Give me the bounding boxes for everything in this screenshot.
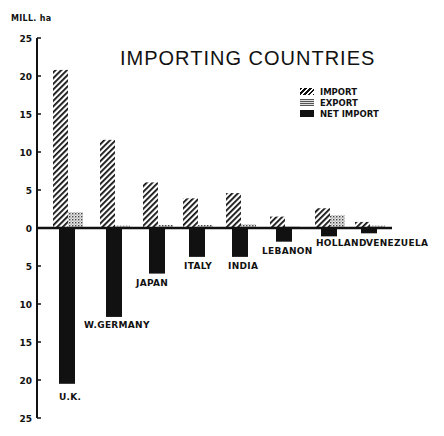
country-label: HOLLAND <box>316 238 367 248</box>
y-tick-label: 15 <box>19 338 32 348</box>
y-tick-label: 25 <box>19 414 32 424</box>
net-import-swatch-icon <box>300 110 314 117</box>
export-bar <box>330 215 345 228</box>
y-tick-label: 5 <box>26 262 32 272</box>
y-tick-label: 0 <box>26 224 32 234</box>
country-label: ITALY <box>184 261 212 271</box>
country-label: W.GERMANY <box>84 320 150 330</box>
legend: IMPORT EXPORT NET IMPORT <box>300 86 379 119</box>
net-import-bar <box>59 228 75 384</box>
import-bar <box>143 182 158 228</box>
country-label: JAPAN <box>136 278 168 288</box>
country-label: U.K. <box>59 392 81 402</box>
y-tick-label: 20 <box>19 376 32 386</box>
country-label: LEBANON <box>262 246 313 256</box>
export-swatch-icon <box>300 99 314 106</box>
net-import-bar <box>321 228 337 236</box>
net-import-bar <box>149 228 165 274</box>
y-tick-label: 20 <box>19 72 32 82</box>
y-tick-label: 10 <box>19 300 32 310</box>
net-import-bar <box>232 228 248 257</box>
legend-item-net-import: NET IMPORT <box>300 108 379 119</box>
chart-title: IMPORTING COUNTRIES <box>120 47 375 70</box>
y-tick-label: 10 <box>19 148 32 158</box>
legend-item-import: IMPORT <box>300 86 379 97</box>
y-tick-label: 25 <box>19 34 32 44</box>
y-axis-label: MILL. ha <box>11 14 51 23</box>
net-import-bar <box>189 228 205 257</box>
y-tick-label: 15 <box>19 110 32 120</box>
net-import-bar <box>276 228 292 242</box>
import-bar <box>315 208 330 228</box>
import-bar <box>183 198 198 228</box>
export-bar <box>68 212 83 228</box>
import-swatch-icon <box>300 88 314 95</box>
country-label: INDIA <box>228 261 258 271</box>
import-bar <box>226 193 241 228</box>
import-bar <box>53 70 68 228</box>
import-bar <box>270 217 285 228</box>
import-bar <box>100 140 115 228</box>
country-label: VENEZUELA <box>366 238 428 248</box>
legend-item-export: EXPORT <box>300 97 379 108</box>
y-tick-label: 5 <box>26 186 32 196</box>
net-import-bar <box>106 228 122 317</box>
